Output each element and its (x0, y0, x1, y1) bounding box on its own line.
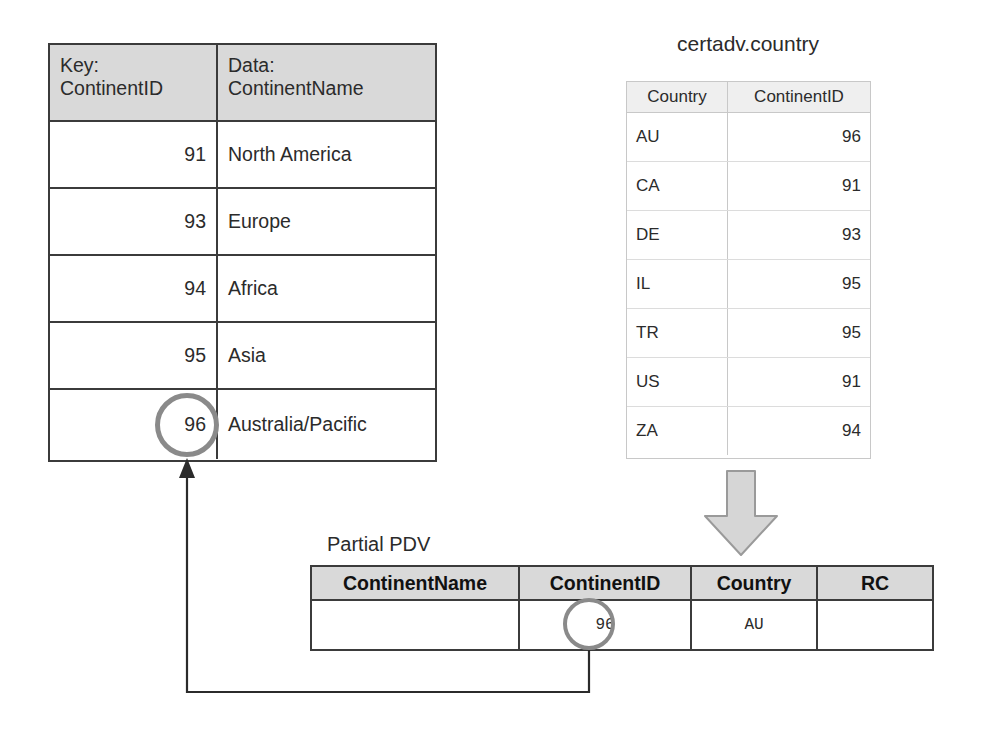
hash-table-row: 94 Africa (50, 256, 435, 323)
continentid-cell: 95 (728, 309, 870, 357)
country-header-country: Country (627, 82, 728, 112)
country-cell: ZA (627, 407, 728, 455)
hash-data-cell: Europe (218, 189, 435, 254)
country-table-row: US 91 (627, 358, 870, 407)
country-table-row: ZA 94 (627, 407, 870, 455)
down-block-arrow-icon (703, 470, 779, 556)
continentid-cell: 91 (728, 358, 870, 406)
pdv-header-continentname: ContinentName (312, 567, 520, 599)
continentid-cell: 93 (728, 211, 870, 259)
country-cell: CA (627, 162, 728, 210)
country-table-title: certadv.country (626, 32, 870, 56)
hash-key-cell-highlighted: 96 (50, 390, 218, 459)
hash-table-row: 91 North America (50, 122, 435, 189)
pdv-header-row: ContinentName ContinentID Country RC (312, 567, 932, 601)
hash-data-cell: Asia (218, 323, 435, 388)
partial-pdv-table: ContinentName ContinentID Country RC 96 … (310, 565, 934, 651)
pdv-header-continentid: ContinentID (520, 567, 692, 599)
pdv-cell-rc (818, 601, 932, 649)
pdv-cell-country: AU (692, 601, 818, 649)
hash-object-table: Key: ContinentID Data: ContinentName 91 … (48, 43, 437, 462)
hash-header-data: Data: ContinentName (218, 45, 435, 120)
country-table-header-row: Country ContinentID (627, 82, 870, 113)
continentid-cell: 91 (728, 162, 870, 210)
country-cell: US (627, 358, 728, 406)
hash-data-cell: North America (218, 122, 435, 187)
country-table-row: DE 93 (627, 211, 870, 260)
hash-table-header-row: Key: ContinentID Data: ContinentName (50, 45, 435, 122)
country-table-row: IL 95 (627, 260, 870, 309)
country-cell: DE (627, 211, 728, 259)
pdv-cell-continentname (312, 601, 520, 649)
hash-header-key: Key: ContinentID (50, 45, 218, 120)
hash-key-cell: 93 (50, 189, 218, 254)
country-cell: TR (627, 309, 728, 357)
diagram-canvas: Key: ContinentID Data: ContinentName 91 … (0, 0, 989, 747)
pdv-header-rc: RC (818, 567, 932, 599)
hash-table-row: 93 Europe (50, 189, 435, 256)
pdv-data-row: 96 AU (312, 601, 932, 649)
country-table-row: TR 95 (627, 309, 870, 358)
country-table-row: CA 91 (627, 162, 870, 211)
hash-table-row: 96 Australia/Pacific (50, 390, 435, 459)
pdv-label: Partial PDV (327, 533, 430, 556)
country-header-continentid: ContinentID (728, 82, 870, 112)
hash-key-cell: 91 (50, 122, 218, 187)
hash-data-cell: Africa (218, 256, 435, 321)
pdv-header-country: Country (692, 567, 818, 599)
hash-table-row: 95 Asia (50, 323, 435, 390)
country-table-row: AU 96 (627, 113, 870, 162)
hash-key-cell: 94 (50, 256, 218, 321)
hash-data-cell: Australia/Pacific (218, 390, 435, 459)
country-table: Country ContinentID AU 96 CA 91 DE 93 IL… (626, 81, 871, 459)
continentid-cell: 95 (728, 260, 870, 308)
country-cell: AU (627, 113, 728, 161)
country-cell: IL (627, 260, 728, 308)
continentid-cell: 94 (728, 407, 870, 455)
pdv-cell-continentid: 96 (520, 601, 692, 649)
continentid-cell: 96 (728, 113, 870, 161)
hash-key-cell: 95 (50, 323, 218, 388)
